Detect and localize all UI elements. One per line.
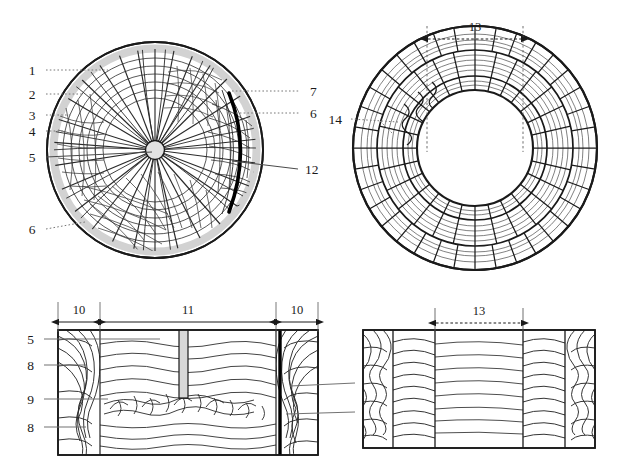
callout-label-8-lower: 8: [27, 420, 34, 435]
dimension-label-13-ring: 13: [469, 20, 482, 34]
disc-center-hub: [146, 141, 165, 160]
callout-label-6-right: 6: [310, 106, 317, 121]
ring-inner-boundary: [417, 90, 533, 206]
callout-label-1: 1: [29, 63, 36, 78]
callout-label-4: 4: [29, 124, 36, 139]
callout-label-5: 5: [29, 150, 36, 165]
callout-label-9: 9: [27, 392, 34, 407]
callout-label-2: 2: [29, 87, 36, 102]
dimension-label-10-right: 10: [291, 303, 304, 317]
callout-label-5-bl: 5: [27, 332, 34, 347]
callout-label-12-disc: 12: [305, 162, 319, 177]
callout-label-14: 14: [329, 112, 343, 127]
dimension-label-11: 11: [182, 303, 194, 317]
dimension-label-13-br: 13: [473, 304, 486, 318]
callout-label-8-upper: 8: [27, 358, 34, 373]
technical-figure: 1 2 3 4 5 6 7 6 12: [0, 0, 626, 468]
callout-label-7: 7: [310, 84, 317, 99]
callout-label-6-left: 6: [29, 222, 36, 237]
dimension-label-10-left: 10: [73, 303, 86, 317]
bl-punch-tool: [179, 330, 188, 398]
callout-label-3: 3: [29, 108, 36, 123]
